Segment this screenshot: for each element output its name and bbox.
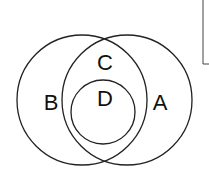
label-d: D <box>97 86 113 111</box>
label-c: C <box>97 50 113 75</box>
label-a: A <box>153 90 168 115</box>
venn-diagram: C B D A <box>0 0 209 176</box>
circle-a <box>62 35 192 165</box>
circle-b <box>17 35 147 165</box>
frame-corner-line <box>203 0 209 64</box>
label-b: B <box>44 90 59 115</box>
